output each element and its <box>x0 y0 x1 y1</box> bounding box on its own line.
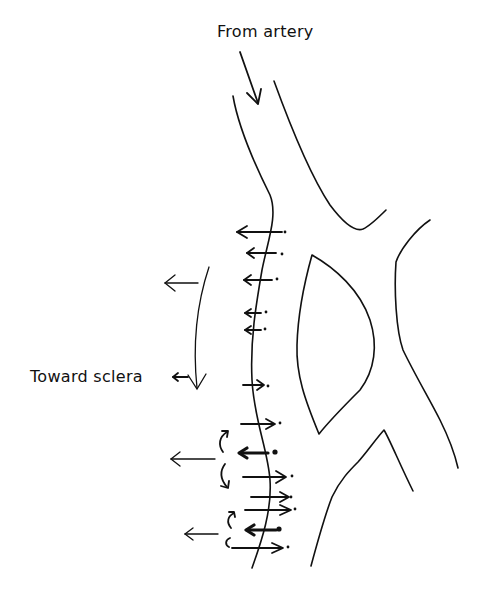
vessel-island <box>297 255 374 434</box>
upper-right-vessel-wall <box>274 81 386 230</box>
outward-arrows-lower <box>171 452 218 540</box>
swirl-arrows <box>220 431 235 547</box>
diagram-drawing <box>0 0 490 594</box>
toward-sclera-arrow <box>173 373 188 381</box>
from-artery-arrow <box>240 52 261 104</box>
downward-flow-arrow <box>188 267 209 389</box>
toward-sclera-label: Toward sclera <box>30 367 143 386</box>
outward-arrow-upper <box>165 275 198 291</box>
lower-vessel-branch <box>311 430 413 566</box>
far-right-vessel-wall <box>395 220 458 468</box>
vessel-flow-diagram: From artery Toward sclera <box>0 0 490 594</box>
wall-arrows-left <box>237 226 286 334</box>
from-artery-label: From artery <box>217 22 314 41</box>
bold-left-arrows <box>239 448 282 535</box>
